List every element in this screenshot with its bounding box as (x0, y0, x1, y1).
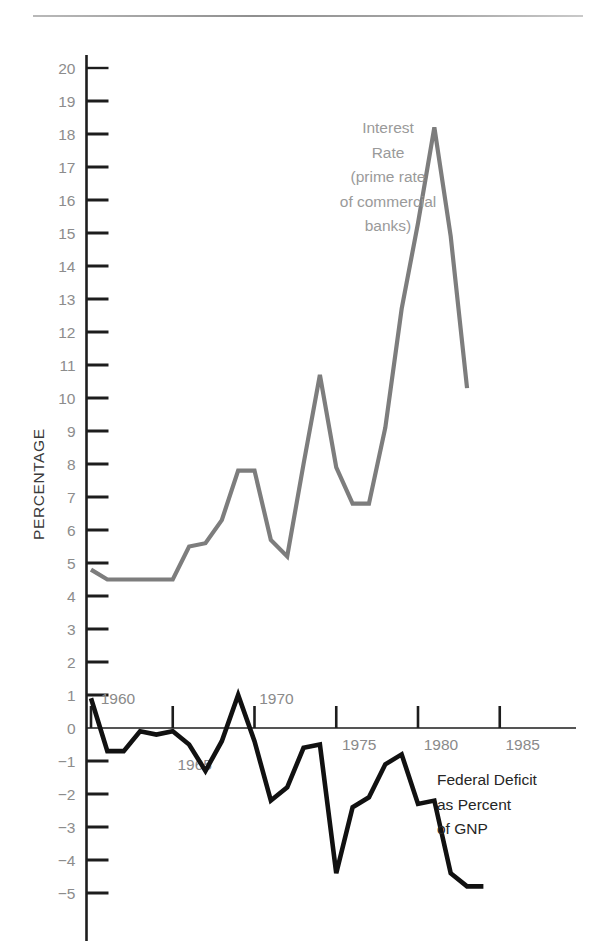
y-tick-label: 1 (67, 687, 76, 704)
y-tick-label: 18 (58, 126, 75, 143)
annotation-line: of GNP (437, 820, 488, 837)
y-tick-label: 3 (67, 621, 76, 638)
y-tick-label: −1 (58, 753, 76, 770)
annotation-line: Federal Deficit (437, 771, 538, 788)
y-tick-label: 7 (67, 489, 76, 506)
y-tick-label: 6 (67, 522, 76, 539)
y-tick-label: −3 (58, 819, 76, 836)
y-tick-label: 4 (67, 588, 76, 605)
y-tick-label: 9 (67, 423, 76, 440)
interest-rate-annotation: InterestRate(prime rateof commercialbank… (340, 119, 436, 234)
y-tick-label: 10 (58, 390, 76, 407)
annotation-line: of commercial (340, 193, 436, 210)
y-tick-label: 14 (58, 258, 76, 275)
y-tick-label: 17 (58, 159, 75, 176)
y-tick-label: 2 (67, 654, 76, 671)
y-tick-label: 20 (58, 60, 76, 77)
y-tick-label: −2 (58, 786, 76, 803)
y-tick-label: 15 (58, 225, 75, 242)
annotation-line: banks) (365, 217, 412, 234)
federal-deficit-annotation: Federal Deficitas Percentof GNP (437, 771, 538, 837)
y-tick-labels: 2019181716151413121110987654321−1−2−3−4−… (58, 60, 76, 902)
y-tick-label-zero: 0 (67, 720, 76, 737)
chart-page: 2019181716151413121110987654321−1−2−3−4−… (0, 0, 593, 941)
y-tick-label: 11 (59, 357, 75, 374)
y-tick-label: 8 (67, 456, 76, 473)
x-tick-label: 1960 (101, 690, 136, 707)
y-tick-label: −5 (58, 885, 76, 902)
annotation-line: Rate (372, 144, 405, 161)
y-tick-label: 19 (58, 93, 75, 110)
y-tick-label: 5 (67, 555, 76, 572)
x-tick-marks (91, 706, 500, 728)
annotation-line: as Percent (437, 796, 512, 813)
x-tick-label: 1980 (424, 736, 459, 753)
annotation-line: (prime rate (351, 168, 426, 185)
y-tick-label: 13 (58, 291, 75, 308)
y-axis-title: PERCENTAGE (30, 428, 47, 540)
x-tick-label: 1975 (342, 736, 376, 753)
y-tick-label: 12 (58, 324, 75, 341)
y-axis-title-text: PERCENTAGE (30, 428, 47, 540)
annotation-line: Interest (362, 119, 414, 136)
y-tick-label: 16 (58, 192, 75, 209)
x-tick-label: 1985 (506, 736, 540, 753)
y-tick-marks (87, 68, 109, 893)
y-tick-label: −4 (58, 852, 76, 869)
chart-canvas: 2019181716151413121110987654321−1−2−3−4−… (0, 0, 593, 941)
federal-deficit-line (91, 695, 483, 886)
x-tick-label: 1970 (259, 690, 294, 707)
